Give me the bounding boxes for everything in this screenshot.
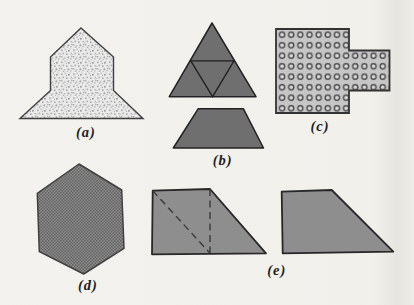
shape-b-large-triangle [169,23,256,97]
figure-b-group [169,23,263,148]
shape-e-right-trapezoid [282,190,394,253]
shape-a-arrow-heptagon [20,28,143,119]
figure-e-group [152,189,393,254]
shape-c-square-with-tab [276,29,390,113]
figure-canvas [0,0,414,305]
figure-label-a: (a) [76,123,96,140]
figure-d-group [37,164,124,274]
scanned-figure-page: (a) (b) (c) (d) (e) [0,0,414,305]
shape-d-hexagon [37,164,124,274]
figure-label-c: (c) [310,117,329,134]
shape-b-trapezoid [173,109,263,148]
shape-e-left-trapezoid [152,189,266,254]
figure-label-d: (d) [78,277,98,294]
figure-label-e: (e) [267,261,286,278]
figure-a-group [20,28,143,119]
figure-label-b: (b) [213,151,233,168]
figure-c-group [276,29,390,113]
